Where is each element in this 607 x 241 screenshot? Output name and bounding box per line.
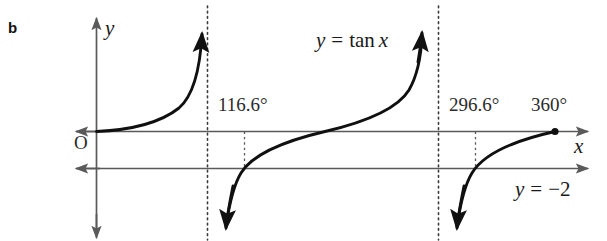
curve-eq-var: x [379,28,388,52]
tan-branch-2-up-arrow [418,33,422,62]
line-eq-lhs: y [515,177,524,201]
curve-eq-lhs: y [316,28,325,52]
tan-branch-3-down-arrow [457,186,464,228]
x-axis-label: x [574,136,583,157]
line-eq-equals: = [530,177,542,201]
curve-eq-fn: tan [349,28,375,52]
graph-svg [0,0,607,241]
tangent-graph-figure: b y x O y=tanx y=−2 116.6° 296.6° 360° [0,0,607,241]
curve-equation-label: y=tanx [316,30,388,51]
tan-branch-1 [97,34,203,132]
line-equation-label: y=−2 [515,179,571,200]
endpoint-dot-360 [551,128,558,135]
tick-label-116-6: 116.6° [218,95,268,114]
y-axis-label: y [105,18,114,39]
part-label-b: b [8,20,17,35]
line-eq-value: −2 [548,177,570,201]
tan-branch-2-down-arrow [226,186,233,228]
curve-eq-equals: = [331,28,343,52]
origin-label: O [74,133,88,152]
tick-label-296-6: 296.6° [449,95,499,114]
tick-label-360: 360° [531,95,567,114]
